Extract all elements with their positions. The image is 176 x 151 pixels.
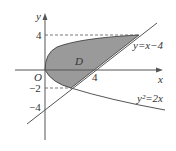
- tick-y-4: 4: [36, 29, 42, 41]
- x-axis-label: x: [157, 73, 163, 85]
- y-axis-arrow-icon: [43, 13, 48, 20]
- line-equation-label: y=x−4: [132, 39, 164, 51]
- region-label: D: [74, 55, 83, 67]
- diagram: y x O 4 −2 −4 4 D y=x−4 y²=2x: [0, 0, 176, 151]
- y-axis-label: y: [35, 10, 41, 22]
- parabola-equation-label: y²=2x: [136, 92, 163, 104]
- tick-y-neg4: −4: [29, 101, 41, 113]
- tick-y-neg2: −2: [29, 82, 41, 94]
- x-axis-arrow-icon: [156, 68, 163, 73]
- tick-x-4: 4: [92, 71, 98, 83]
